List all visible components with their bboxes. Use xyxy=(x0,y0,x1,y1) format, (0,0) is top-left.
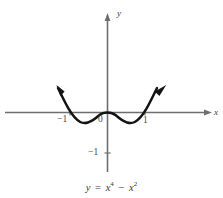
caption-term2-exponent: 2 xyxy=(134,180,138,188)
figure-caption-equation: y = x4 − x2 xyxy=(0,180,223,193)
y-axis-label: y xyxy=(117,9,121,18)
x-tick-label-negative-one: −1 xyxy=(57,115,68,125)
origin-label: 0 xyxy=(98,115,103,125)
x-axis-label: x xyxy=(214,108,218,117)
y-axis-arrowhead xyxy=(105,13,111,21)
caption-term1-exponent: 4 xyxy=(110,180,114,188)
x-tick-label-positive-one: 1 xyxy=(143,116,148,126)
caption-lhs: y xyxy=(86,182,91,193)
coordinate-plane-svg xyxy=(0,0,223,198)
caption-minus: − xyxy=(116,182,126,193)
x-axis-arrowhead xyxy=(204,110,212,116)
curve-left-arrowhead xyxy=(56,85,64,96)
caption-equals: = xyxy=(93,182,103,193)
y-tick-label-negative-one: −1 xyxy=(88,148,99,158)
